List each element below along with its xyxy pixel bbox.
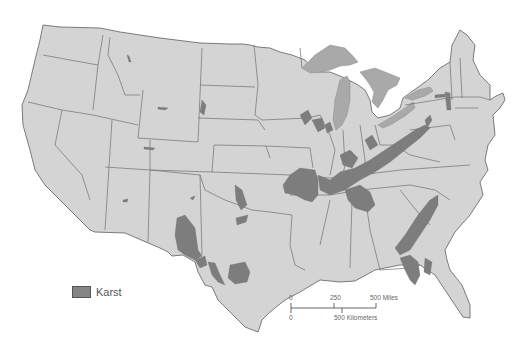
karst-swatch (72, 286, 91, 298)
legend: Karst (72, 286, 122, 298)
scale-km-0: 0 (289, 314, 293, 321)
scale-bar: 0 250 500 Miles 0 500 Kilometers (289, 294, 399, 321)
scale-miles-0: 0 (289, 294, 293, 301)
scale-miles-500: 500 Miles (370, 294, 399, 301)
lake-superior (302, 45, 358, 73)
legend-label-karst: Karst (96, 286, 122, 298)
scale-miles-250: 250 (330, 294, 341, 301)
scale-km-500: 500 Kilometers (334, 314, 378, 321)
